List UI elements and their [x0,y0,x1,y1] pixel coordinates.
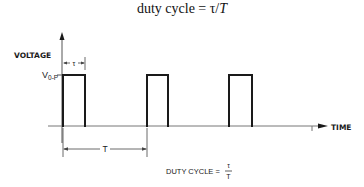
time-axis [48,124,328,132]
pulse-width-symbol: τ [73,60,76,67]
voltage-axis-label: VOLTAGE [14,51,51,60]
period-symbol: T [102,144,107,154]
level-label: V0-P [42,70,58,81]
level-label-subscript: 0-P [48,74,58,81]
pulse-3 [229,75,252,127]
arrow-up-icon [60,32,65,40]
pulse-1 [63,75,85,127]
time-axis-label: TIME [331,123,352,132]
formula-label: DUTY CYCLE = [166,167,220,176]
arrow-right-icon [318,124,328,129]
pulse-train [63,75,252,127]
duty-cycle-diagram: VOLTAGE TIME V0-P τ T DUTY CYCLE = τ T [0,0,364,187]
formula-numerator: τ [227,162,230,169]
pulse-2 [147,75,168,127]
formula-denominator: T [226,173,231,180]
